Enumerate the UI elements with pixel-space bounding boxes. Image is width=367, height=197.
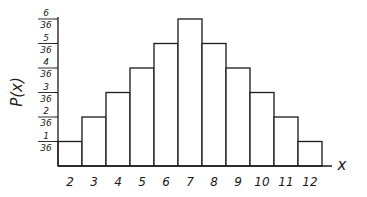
y-tick-denominator: 36	[40, 20, 52, 30]
bar-12	[298, 142, 322, 167]
bar-7	[178, 19, 202, 166]
bar-4	[106, 93, 130, 167]
x-tick-11: 11	[278, 175, 293, 189]
x-tick-8: 8	[210, 175, 218, 189]
y-tick-denominator: 36	[40, 94, 52, 104]
x-tick-3: 3	[90, 175, 98, 189]
x-tick-4: 4	[114, 175, 122, 189]
x-tick-9: 9	[234, 175, 242, 189]
y-tick-numerator: 2	[43, 106, 49, 116]
x-tick-5: 5	[138, 175, 146, 189]
bars-group	[58, 19, 322, 166]
y-axis-label: P(x)	[8, 77, 26, 107]
bar-10	[250, 93, 274, 167]
bar-2	[58, 142, 82, 167]
bar-11	[274, 117, 298, 166]
histogram-chart: 23456789101112 136236336436536636 P(x) x	[0, 0, 367, 197]
y-tick-denominator: 36	[40, 69, 52, 79]
y-tick-labels: 136236336436536636	[38, 8, 54, 153]
x-axis-label: x	[337, 156, 347, 174]
y-tick-denominator: 36	[40, 45, 52, 55]
y-tick-denominator: 36	[40, 143, 52, 153]
x-tick-labels: 23456789101112	[66, 175, 317, 189]
bar-3	[82, 117, 106, 166]
x-tick-12: 12	[302, 175, 317, 189]
x-tick-10: 10	[254, 175, 270, 189]
bar-6	[154, 44, 178, 167]
y-tick-numerator: 1	[43, 131, 49, 141]
y-tick-numerator: 6	[43, 8, 49, 18]
y-tick-denominator: 36	[40, 118, 52, 128]
bar-8	[202, 44, 226, 167]
x-tick-2: 2	[66, 175, 74, 189]
x-tick-6: 6	[162, 175, 170, 189]
y-tick-numerator: 5	[43, 33, 49, 43]
x-tick-7: 7	[186, 175, 194, 189]
bar-9	[226, 68, 250, 166]
bar-5	[130, 68, 154, 166]
y-tick-numerator: 3	[43, 82, 49, 92]
y-tick-numerator: 4	[43, 57, 49, 67]
